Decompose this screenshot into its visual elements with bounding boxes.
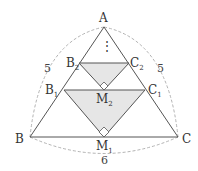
triangle-diagram: A ⋮ B C B1 C1 B2 C2 M2 M1 5 5 6 [0,0,198,171]
label-b: B [15,132,24,146]
measure-ac: 5 [157,62,164,75]
ellipsis: ⋮ [101,39,113,53]
label-c2: C2 [130,56,144,72]
label-b2: B2 [66,56,79,72]
label-b1: B1 [45,83,58,99]
label-c1: C1 [148,83,162,99]
measure-ab: 5 [44,62,51,75]
measure-bc: 6 [101,154,108,167]
label-c: C [182,132,191,146]
label-a: A [98,11,108,25]
label-m1: M1 [96,139,113,155]
